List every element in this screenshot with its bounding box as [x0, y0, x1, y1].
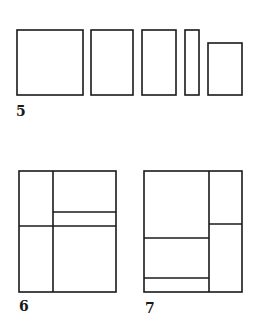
- figure-7-subdivided-square: [144, 171, 242, 292]
- outer-square: [144, 171, 242, 292]
- rectangle-3: [142, 30, 176, 95]
- diagram-canvas: [0, 0, 264, 336]
- figure-7-label: 7: [145, 301, 155, 315]
- figure-6-subdivided-square: [19, 171, 116, 292]
- rectangle-5: [208, 43, 242, 95]
- figure-6-label: 6: [19, 299, 29, 313]
- figure-5-rectangles: [17, 30, 242, 95]
- outer-square: [19, 171, 116, 292]
- figure-5-label: 5: [16, 104, 26, 118]
- rectangle-4: [185, 30, 199, 95]
- rectangle-2: [91, 30, 133, 95]
- rectangle-1: [17, 30, 83, 95]
